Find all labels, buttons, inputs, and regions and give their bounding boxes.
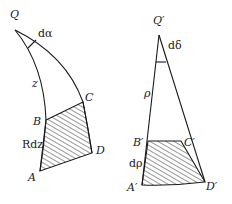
left-figure: Q dα z B C D A Rdz	[10, 8, 105, 184]
label-Q-prime: Q′	[153, 14, 165, 27]
label-d-delta: dδ	[168, 39, 182, 52]
diagram-canvas: Q dα z B C D A Rdz Q′ dδ ρ B′ C′ D′ A′ d…	[0, 0, 232, 204]
label-C: C	[85, 91, 94, 104]
label-B-prime: B′	[132, 136, 144, 149]
label-A: A	[27, 171, 36, 184]
left-hatched-element	[40, 102, 92, 171]
label-d-rho: dρ	[129, 157, 143, 170]
label-d-alpha: dα	[38, 27, 53, 40]
label-A-prime: A′	[126, 181, 138, 194]
right-hatched-element	[142, 141, 205, 185]
label-Q: Q	[10, 8, 19, 21]
label-rho: ρ	[143, 87, 151, 100]
label-C-prime: C′	[184, 136, 195, 149]
label-B: B	[32, 115, 41, 128]
left-angle-arc	[28, 40, 36, 48]
label-D-prime: D′	[205, 180, 218, 193]
label-Rdz: Rdz	[22, 138, 43, 151]
label-D: D	[95, 144, 105, 157]
label-z: z	[31, 77, 38, 90]
right-figure: Q′ dδ ρ B′ C′ D′ A′ dρ	[126, 14, 218, 194]
